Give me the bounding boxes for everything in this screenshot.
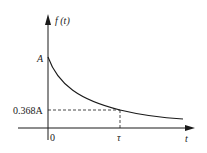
level-label: 0.368A [13, 105, 44, 116]
x-axis-arrow-icon [185, 125, 195, 131]
exponential-decay-diagram: f (t) t A 0.368A 0 τ [0, 0, 207, 153]
amplitude-label: A [36, 53, 44, 64]
x-axis-label: t [185, 133, 188, 144]
origin-label: 0 [50, 132, 55, 143]
y-axis-arrow-icon [45, 14, 51, 25]
y-axis-label: f (t) [55, 15, 70, 27]
tau-label: τ [117, 132, 121, 143]
